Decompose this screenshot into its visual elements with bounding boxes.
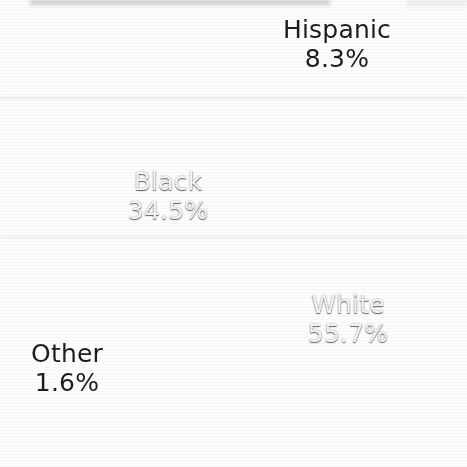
slice-hispanic bbox=[254, 64, 341, 245]
pie-chart-figure: Hispanic 8.3% Black 34.5% White 55.7% Ot… bbox=[0, 0, 467, 467]
slice-white bbox=[113, 103, 431, 439]
slice-black bbox=[69, 77, 250, 357]
pie-slices bbox=[0, 0, 467, 467]
slice-other bbox=[89, 268, 237, 381]
